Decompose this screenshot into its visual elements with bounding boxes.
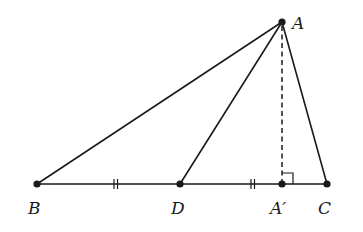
label-d: D: [170, 198, 185, 218]
label-b: B: [27, 198, 41, 218]
segment-ab: [37, 22, 282, 184]
point-c: [323, 180, 330, 187]
segment-ac: [282, 22, 327, 184]
point-a: [278, 18, 285, 25]
label-a: A: [290, 13, 304, 33]
point-b: [33, 180, 40, 187]
point-a-prime: [278, 180, 285, 187]
label-c: C: [318, 198, 331, 218]
label-a-prime: A′: [268, 198, 286, 218]
segment-ad-median: [180, 22, 282, 184]
point-d: [176, 180, 183, 187]
triangle-median-altitude-diagram: A B D A′ C: [0, 0, 363, 232]
